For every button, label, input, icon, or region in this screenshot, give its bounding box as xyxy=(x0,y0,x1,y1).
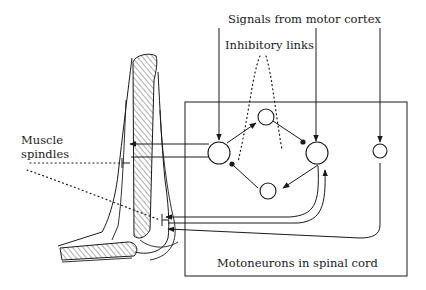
muscle-line-right xyxy=(150,110,175,260)
motoneuron-far-right xyxy=(373,144,387,158)
inhibitory-top-to-right xyxy=(273,121,303,141)
inhibitory-label: Inhibitory links xyxy=(225,38,314,52)
spinal-cord-label: Motoneurons in spinal cord xyxy=(217,256,378,270)
muscle-label: Muscle xyxy=(21,133,63,147)
inhibitory-link-left xyxy=(238,56,260,162)
inhibitory-bottom-to-left xyxy=(234,166,258,188)
excitatory-to-bottom xyxy=(283,165,318,188)
interneuron-top xyxy=(258,109,274,125)
muscle-spindle-lower xyxy=(162,214,168,226)
arm-illustration xyxy=(58,54,178,262)
signals-label: Signals from motor cortex xyxy=(228,12,381,26)
spinal-cord-box xyxy=(185,102,407,276)
interneuron-bottom xyxy=(260,183,276,199)
motor-control-diagram: Signals from motor cortex Inhibitory lin… xyxy=(0,0,426,290)
inhibitory-synapse-left xyxy=(229,161,234,166)
humerus-bone xyxy=(133,54,157,238)
motoneuron-right xyxy=(306,142,328,164)
forearm-bone xyxy=(60,242,137,260)
spindles-label: spindles xyxy=(21,147,69,161)
motoneuron-left xyxy=(208,142,230,164)
inhibitory-synapse-right xyxy=(300,139,305,144)
inhibitory-link-right xyxy=(266,56,282,150)
excitatory-to-top xyxy=(227,123,256,143)
far-right-output xyxy=(168,163,380,238)
